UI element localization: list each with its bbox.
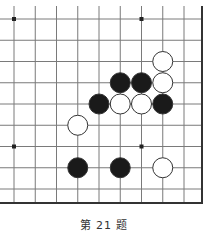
white-stone — [153, 158, 173, 178]
star-point — [12, 145, 16, 149]
white-stone — [153, 52, 173, 72]
go-board — [0, 0, 208, 212]
black-stone — [153, 94, 173, 114]
star-point — [140, 145, 144, 149]
black-stone — [110, 158, 130, 178]
black-stone — [110, 73, 130, 93]
star-point — [140, 17, 144, 21]
white-stone — [68, 115, 88, 135]
black-stone — [89, 94, 109, 114]
white-stone — [110, 94, 130, 114]
white-stone — [153, 73, 173, 93]
black-stone — [68, 158, 88, 178]
problem-caption: 第 21 题 — [0, 216, 208, 232]
white-stone — [132, 94, 152, 114]
black-stone — [132, 73, 152, 93]
star-point — [12, 17, 16, 21]
